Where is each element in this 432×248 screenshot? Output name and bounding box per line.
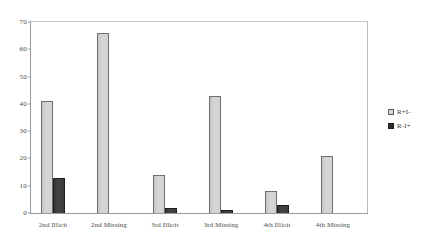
chart-legend: R+I-R-I+ [388,108,411,130]
legend-swatch-icon [388,109,394,115]
plot-area: 010203040506070 2nd Illicit2nd Missing3r… [30,21,368,214]
bar [265,191,277,213]
bar [53,178,65,213]
bar [97,33,109,213]
x-axis-tick-label: 3rd Illicit [151,221,178,229]
chart-screenshot: 010203040506070 2nd Illicit2nd Missing3r… [0,0,432,248]
y-axis-tick-mark [28,185,31,186]
x-axis-tick-label: 4th Illicit [264,221,291,229]
legend-item[interactable]: R-I+ [388,122,411,130]
legend-item-label: R-I+ [397,122,411,130]
y-axis-tick-mark [28,131,31,132]
x-axis-tick-label: 2nd Illicit [39,221,68,229]
y-axis-tick-mark [28,103,31,104]
x-axis-tick-label: 2nd Missing [91,221,127,229]
x-axis-tick-label: 3rd Missing [204,221,239,229]
y-axis-tick-mark [28,213,31,214]
x-axis-tick-label: 4th Missing [316,221,350,229]
bar [153,175,165,213]
y-axis-tick-mark [28,158,31,159]
bar [321,156,333,213]
bar [41,101,53,213]
bar [277,205,289,213]
legend-swatch-icon [388,123,394,129]
x-axis-line [30,213,368,214]
y-axis-tick-mark [28,49,31,50]
bar [165,208,177,213]
bar [209,96,221,213]
bar [221,210,233,213]
y-axis-tick-mark [28,22,31,23]
y-axis-tick-mark [28,76,31,77]
legend-item[interactable]: R+I- [388,108,411,116]
legend-item-label: R+I- [397,108,411,116]
